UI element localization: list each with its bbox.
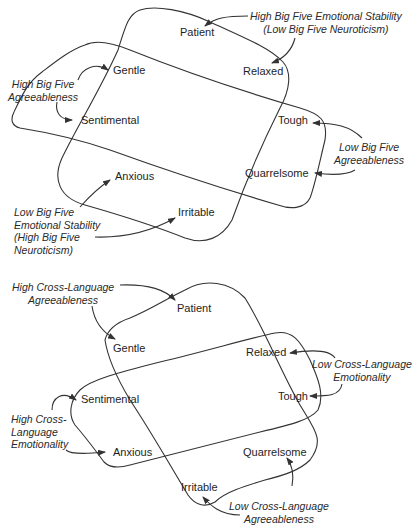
annotation-line: Low Cross-Language xyxy=(229,500,329,513)
arrow-bot-lowemo-to-tough xyxy=(310,384,342,396)
annotation-line: Neuroticism) xyxy=(14,244,100,257)
top-trait-irritable: Irritable xyxy=(178,206,215,219)
bottom-trait-tough: Tough xyxy=(278,390,308,403)
bottom-trait-quarrelsome: Quarrelsome xyxy=(243,446,307,459)
top-trait-quarrelsome: Quarrelsome xyxy=(245,167,309,180)
top-trait-sentimental: Sentimental xyxy=(81,114,139,127)
bottom-trait-relaxed: Relaxed xyxy=(246,346,286,359)
annotation-line: Agreeableness xyxy=(229,513,329,526)
arrow-top-agree-to-gentle xyxy=(78,66,108,80)
annotation-line: Agreeableness xyxy=(334,154,404,167)
bottom-annotation-high-emotionality: High Cross- Language Emotionality xyxy=(11,413,68,451)
top-trait-gentle: Gentle xyxy=(113,64,145,77)
top-trait-anxious: Anxious xyxy=(115,170,154,183)
annotation-line: Agreeableness xyxy=(8,91,78,104)
annotation-line: High Big Five xyxy=(8,78,78,91)
top-annotation-high-agreeableness: High Big Five Agreeableness xyxy=(8,78,78,103)
bottom-annotation-low-emotionality: Low Cross-Language Emotionality xyxy=(312,358,412,383)
top-annotation-high-emotional-stability: High Big Five Emotional Stability (Low B… xyxy=(250,10,402,35)
bottom-trait-gentle: Gentle xyxy=(113,342,145,355)
top-trait-tough: Tough xyxy=(278,114,308,127)
annotation-line: Low Cross-Language xyxy=(312,358,412,371)
arrow-bot-highemo-to-anxious xyxy=(66,450,105,453)
bottom-trait-irritable: Irritable xyxy=(181,481,218,494)
annotation-line: High Cross-Language xyxy=(12,281,114,294)
arrow-top-lowagree-to-quarrelsome xyxy=(315,170,355,175)
annotation-line: Emotionality xyxy=(312,371,412,384)
annotation-line: High Cross- xyxy=(11,413,68,426)
arrow-top-stability-to-patient xyxy=(205,16,248,26)
bottom-annotation-low-agreeableness: Low Cross-Language Agreeableness xyxy=(229,500,329,525)
top-annotation-low-emotional-stability: Low Big Five Emotional Stability (High B… xyxy=(14,206,100,256)
annotation-line: (High Big Five xyxy=(14,231,100,244)
arrow-bot-lowemo-to-relaxed xyxy=(290,351,335,358)
annotation-line: Language xyxy=(11,426,68,439)
arrow-bot-highagree-to-gentle xyxy=(92,306,115,339)
annotation-line: Low Big Five xyxy=(14,206,100,219)
top-trait-patient: Patient xyxy=(180,26,214,39)
annotation-line: Emotional Stability xyxy=(14,219,100,232)
bottom-annotation-high-agreeableness: High Cross-Language Agreeableness xyxy=(12,281,114,306)
arrow-bot-highagree-to-patient xyxy=(120,285,175,300)
bottom-trait-patient: Patient xyxy=(177,302,211,315)
top-trait-relaxed: Relaxed xyxy=(243,65,283,78)
arrow-top-lowstab-to-irritable xyxy=(95,218,175,237)
annotation-line: Emotionality xyxy=(11,438,68,451)
arrow-top-stability-to-relaxed xyxy=(272,38,295,63)
arrow-top-lowstab-to-anxious xyxy=(80,180,110,207)
annotation-line: (Low Big Five Neuroticism) xyxy=(250,23,402,36)
top-annotation-low-agreeableness: Low Big Five Agreeableness xyxy=(334,141,404,166)
bottom-trait-anxious: Anxious xyxy=(113,446,152,459)
annotation-line: High Big Five Emotional Stability xyxy=(250,10,402,23)
annotation-line: Agreeableness xyxy=(12,294,114,307)
bottom-trait-sentimental: Sentimental xyxy=(81,393,139,406)
arrow-top-agree-to-sentimental xyxy=(57,102,72,120)
arrow-top-lowagree-to-tough xyxy=(313,123,362,138)
annotation-line: Low Big Five xyxy=(334,141,404,154)
